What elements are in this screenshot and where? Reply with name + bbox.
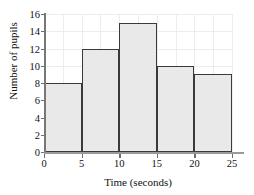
y-axis-tick-labels: 0246810121416 [18,8,40,160]
histogram-chart: Number of pupils 0246810121416 051015202… [0,0,254,195]
plot-area [44,14,232,152]
y-axis-tick-label: 2 [18,129,40,140]
x-axis-tick-label: 0 [32,158,56,170]
x-axis-title: Time (seconds) [44,176,232,189]
x-axis-line [44,152,244,154]
y-axis-tick-label: 0 [18,147,40,158]
x-axis-tick-label: 20 [182,158,206,170]
histogram-bar [82,49,120,153]
y-axis-tick-label: 10 [18,60,40,71]
y-axis-tick-label: 4 [18,112,40,123]
y-axis-tick-label: 6 [18,95,40,106]
x-axis-tick-label: 15 [145,158,169,170]
y-axis-line [44,13,46,153]
histogram-bar [194,74,232,152]
y-axis-tick-label: 14 [18,26,40,37]
y-axis-tick-label: 12 [18,43,40,54]
histogram-bar [119,23,157,152]
histogram-bar [44,83,82,152]
x-axis-tick-label: 5 [70,158,94,170]
x-axis-tick-label: 25 [220,158,244,170]
y-axis-tick-label: 16 [18,9,40,20]
gridline-vertical [232,14,233,152]
y-axis-tick-label: 8 [18,78,40,89]
x-axis-tick-label: 10 [107,158,131,170]
histogram-bar [157,66,195,152]
